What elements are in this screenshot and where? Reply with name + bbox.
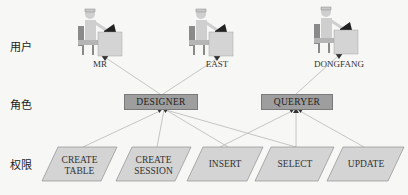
permission-line1: CREATE <box>52 155 107 166</box>
permission-line2: SESSION <box>125 166 182 177</box>
permission-insert-label: INSERT <box>196 159 254 169</box>
permission-update-label: UPDATE <box>336 159 396 169</box>
permission-create-table-label: CREATE TABLE <box>52 155 107 177</box>
permission-select-label: SELECT <box>265 159 325 169</box>
permission-line1: CREATE <box>125 155 182 166</box>
rbac-diagram: 用户 角色 权限 <box>0 0 408 195</box>
permission-line2: TABLE <box>52 166 107 177</box>
permission-create-session-label: CREATE SESSION <box>125 155 182 177</box>
